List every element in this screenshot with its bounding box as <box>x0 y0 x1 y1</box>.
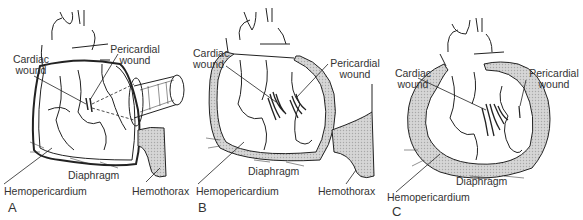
panel-b-letter: B <box>198 200 207 215</box>
panel-c-heart <box>396 18 550 192</box>
panel-b-cardiac-wound-label: Cardiac wound <box>193 48 229 70</box>
label-line: wound <box>322 69 388 80</box>
panel-c-diaphragm-label: Diaphragm <box>456 176 507 187</box>
panel-b-hemothorax-label: Hemothorax <box>318 186 375 197</box>
panel-a-diaphragm-label: Diaphragm <box>68 170 119 181</box>
label-line: wound <box>388 79 438 90</box>
panel-a-pericardial-wound-label: Pericardial wound <box>102 44 168 66</box>
panel-b-pericardial-wound-label: Pericardial wound <box>322 58 388 80</box>
panel-c-letter: C <box>392 204 401 219</box>
panel-b-diaphragm-label: Diaphragm <box>248 166 299 177</box>
label-line: wound <box>6 65 56 76</box>
panel-a-cardiac-wound-label: Cardiac wound <box>6 54 56 76</box>
panel-c-pericardial-wound-label: Pericardial wound <box>524 68 583 90</box>
panel-b-hemopericardium-label: Hemopericardium <box>196 186 279 197</box>
panel-c-cardiac-wound-label: Cardiac wound <box>388 68 438 90</box>
panel-a-hemopericardium-label: Hemopericardium <box>4 186 87 197</box>
label-line: wound <box>102 55 168 66</box>
panel-a-hemothorax-label: Hemothorax <box>132 186 189 197</box>
label-line: wound <box>524 79 583 90</box>
panel-a-heart <box>4 10 184 184</box>
panel-a-letter: A <box>8 200 17 215</box>
panel-c-hemopericardium-label: Hemopericardium <box>387 192 470 203</box>
label-line: wound <box>193 59 229 70</box>
panel-b-heart <box>198 8 374 184</box>
